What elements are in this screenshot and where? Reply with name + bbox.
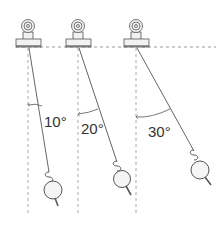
pendulum-2: 20° (78, 48, 131, 195)
hook-1 (45, 172, 53, 182)
diagram-canvas: 10° 20° 30° (0, 0, 224, 242)
clamp-1 (16, 20, 41, 48)
clamp-2 (66, 20, 91, 48)
bob-2 (114, 171, 131, 188)
clamp-3 (124, 20, 149, 48)
angle-label-2: 20° (81, 120, 104, 137)
string-1 (29, 48, 49, 172)
pendulum-diagram: 10° 20° 30° (0, 0, 224, 242)
string-2 (79, 48, 117, 162)
hook-3 (190, 150, 198, 160)
angle-label-3: 30° (148, 123, 171, 140)
pendulum-1: 10° (28, 48, 67, 206)
hook-2 (113, 161, 121, 171)
bob-1 (44, 181, 62, 199)
angle-arc-3 (136, 109, 170, 117)
bob-3 (191, 161, 209, 179)
angle-label-1: 10° (44, 113, 67, 130)
pendulum-3: 30° (136, 48, 211, 185)
angle-arc-2 (78, 109, 98, 114)
